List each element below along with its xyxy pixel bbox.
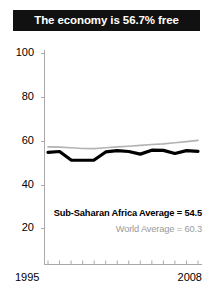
economic-freedom-chart: The economy is 56.7% free 100 80 60 40 2… [0, 0, 214, 303]
annotation-region-average: Sub-Saharan Africa Average = 54.5 [44, 208, 202, 219]
y-tick-label-100: 100 [8, 47, 34, 58]
x-tick-label-end: 2008 [178, 272, 202, 283]
y-tick-marks [41, 54, 45, 229]
chart-title-bar: The economy is 56.7% free [13, 10, 200, 31]
x-tick-label-start: 1995 [15, 272, 39, 283]
annotation-world-average: World Average = 60.3 [44, 224, 202, 235]
y-tick-label-20: 20 [8, 222, 34, 233]
x-tick-marks [48, 261, 198, 265]
chart-title: The economy is 56.7% free [34, 15, 179, 27]
y-axis-labels: 100 80 60 40 20 [8, 0, 34, 303]
chart-annotations: Sub-Saharan Africa Average = 54.5 World … [44, 208, 202, 234]
x-axis-labels: 1995 2008 [0, 272, 214, 286]
sub-saharan-africa-line [48, 150, 198, 160]
y-tick-label-40: 40 [8, 179, 34, 190]
world-average-line [48, 140, 198, 148]
y-tick-label-60: 60 [8, 135, 34, 146]
y-tick-label-80: 80 [8, 91, 34, 102]
